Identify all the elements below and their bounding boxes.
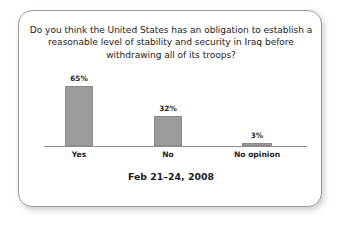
bar-yes [65, 86, 93, 146]
bar-value-label: 3% [215, 131, 299, 140]
bar-no-opinion [242, 143, 272, 146]
bar-group-no: 32% No [126, 66, 210, 146]
bar-value-label: 65% [37, 74, 121, 83]
bar-group-no-opinion: 3% No opinion [215, 66, 299, 146]
category-label-yes: Yes [37, 150, 121, 159]
bar-value-label: 32% [126, 104, 210, 113]
category-label-no-opinion: No opinion [215, 150, 299, 159]
chart-card: Do you think the United States has an ob… [18, 10, 322, 207]
chart-caption-date: Feb 21–24, 2008 [29, 171, 313, 182]
bar-group-yes: 65% Yes [37, 66, 121, 146]
bar-no [154, 116, 182, 146]
x-axis-baseline [44, 146, 307, 147]
category-label-no: No [126, 150, 210, 159]
